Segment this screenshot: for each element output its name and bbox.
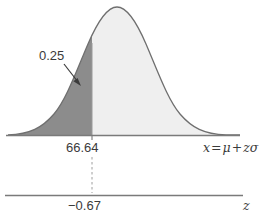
curve-area-right: [8, 7, 240, 135]
x-axis-value-label: 66.64: [66, 141, 99, 154]
x-axis-title-plus: +: [231, 140, 243, 155]
z-axis-title: z: [243, 200, 250, 213]
x-axis-title-variable: x: [203, 140, 210, 155]
tail-probability-label: 0.25: [39, 49, 64, 62]
x-axis-title: x=μ+zσ: [203, 142, 258, 155]
x-axis-title-equals: =: [210, 140, 222, 155]
z-axis-value-label: −0.67: [68, 199, 101, 212]
distribution-plot: [0, 0, 279, 218]
x-axis-title-mu: μ: [223, 140, 231, 155]
normal-distribution-figure: 0.25 66.64 −0.67 x=μ+zσ z: [0, 0, 279, 218]
x-axis-title-zsigma: zσ: [243, 140, 258, 155]
